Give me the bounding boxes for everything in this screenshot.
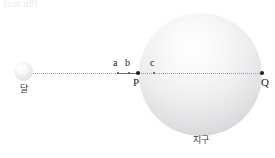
label-point-c: c <box>150 58 154 68</box>
point-marker-p <box>136 71 140 75</box>
label-earth: 지구 <box>179 135 223 146</box>
label-point-q: Q <box>261 77 269 87</box>
label-point-b: b <box>125 58 130 68</box>
point-marker-c <box>153 72 155 74</box>
point-marker-q <box>260 71 264 75</box>
label-point-p: P <box>133 77 139 87</box>
cut-off-header-text: [cut off] <box>4 0 164 7</box>
label-moon: 달 <box>14 84 34 95</box>
sight-line-across-earth <box>139 73 264 75</box>
point-marker-a <box>117 72 119 74</box>
label-point-a: a <box>113 58 117 68</box>
point-marker-b <box>128 72 130 74</box>
diagram-canvas: [cut off] a b c P Q 달 지구 <box>0 0 275 158</box>
moon-sphere <box>14 62 33 81</box>
